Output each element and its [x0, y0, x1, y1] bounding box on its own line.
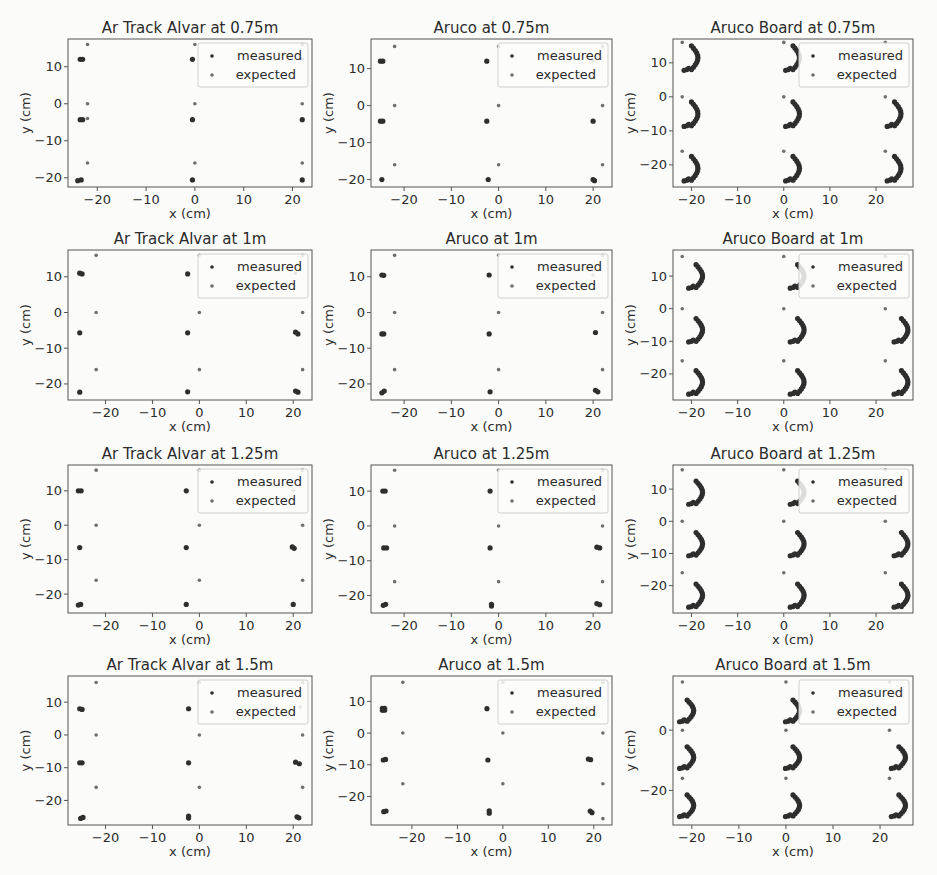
- measured-point: [677, 814, 682, 819]
- expected-point: [86, 161, 90, 165]
- expected-point: [198, 523, 202, 527]
- x-tick-label: −10: [438, 192, 465, 207]
- measured-point: [487, 811, 492, 816]
- expected-point: [94, 733, 98, 737]
- expected-point: [301, 311, 305, 315]
- measured-point: [896, 337, 901, 342]
- expected-point: [601, 368, 605, 372]
- expected-point: [601, 311, 605, 315]
- expected-point: [784, 777, 788, 781]
- measured-point: [77, 330, 82, 335]
- subplot-title: Aruco Board at 1m: [723, 230, 864, 248]
- measured-point: [588, 757, 593, 762]
- y-tick-label: 10: [348, 61, 365, 76]
- measured-point: [788, 812, 793, 817]
- x-axis-label: x (cm): [772, 844, 814, 859]
- x-tick-label: 0: [191, 192, 199, 207]
- x-tick-label: 0: [195, 618, 203, 633]
- subplot-title: Ar Track Alvar at 1m: [114, 230, 267, 248]
- expected-point: [601, 524, 605, 528]
- measured-point: [686, 339, 691, 344]
- legend-expected-label: expected: [236, 67, 296, 82]
- legend-expected-label: expected: [837, 704, 897, 719]
- measured-point: [681, 124, 686, 129]
- measured-point: [792, 551, 797, 556]
- measured-point: [682, 764, 687, 769]
- y-axis-label: y (cm): [18, 518, 33, 560]
- x-axis-label: x (cm): [169, 206, 211, 221]
- x-tick-label: −10: [724, 405, 751, 420]
- x-tick-label: 0: [780, 192, 788, 207]
- legend-measured-label: measured: [537, 474, 602, 489]
- legend: measuredexpected: [198, 469, 308, 513]
- x-tick-label: 20: [868, 192, 885, 207]
- x-tick-label: −20: [678, 405, 705, 420]
- measured-point: [77, 390, 82, 395]
- legend-measured-label: measured: [237, 685, 302, 700]
- x-axis-label: x (cm): [471, 206, 513, 221]
- expected-point: [884, 571, 888, 575]
- legend-measured-label: measured: [537, 685, 602, 700]
- legend-measured-marker: [210, 691, 214, 695]
- expected-point: [198, 368, 202, 372]
- measured-point: [291, 602, 296, 607]
- legend-expected-marker: [811, 284, 815, 288]
- measured-point: [691, 390, 696, 395]
- legend-expected-marker: [510, 73, 514, 77]
- legend-expected-marker: [510, 710, 514, 714]
- expected-point: [393, 524, 397, 528]
- x-tick-label: 20: [585, 192, 602, 207]
- y-tick-label: −20: [640, 366, 667, 381]
- y-tick-label: −10: [640, 546, 667, 561]
- expected-point: [94, 311, 98, 315]
- measured-point: [597, 602, 602, 607]
- measured-point: [896, 603, 901, 608]
- x-tick-label: 20: [285, 830, 302, 845]
- measured-point: [597, 545, 602, 550]
- legend-measured-marker: [811, 54, 815, 58]
- measured-point: [788, 66, 793, 71]
- expected-point: [198, 311, 202, 315]
- expected-point: [393, 580, 397, 584]
- measured-point: [382, 388, 387, 393]
- expected-point: [393, 254, 397, 258]
- x-tick-label: 0: [499, 830, 507, 845]
- measured-point: [595, 389, 600, 394]
- expected-point: [784, 728, 788, 732]
- measured-point: [80, 815, 85, 820]
- expected-point: [94, 368, 98, 372]
- measured-point: [681, 178, 686, 183]
- legend: measuredexpected: [799, 680, 909, 724]
- x-tick-label: 10: [238, 618, 255, 633]
- legend: measuredexpected: [799, 43, 909, 87]
- expected-point: [393, 468, 397, 472]
- legend-measured-marker: [811, 480, 815, 484]
- measured-point: [79, 177, 84, 182]
- y-axis-label: y (cm): [18, 730, 33, 772]
- y-tick-label: 0: [659, 301, 667, 316]
- expected-point: [94, 579, 98, 583]
- y-tick-label: 10: [348, 484, 365, 499]
- subplot-title: Ar Track Alvar at 1.25m: [102, 445, 279, 463]
- legend-measured-marker: [811, 691, 815, 695]
- legend-expected-label: expected: [536, 278, 596, 293]
- legend-expected-label: expected: [236, 278, 296, 293]
- measured-point: [381, 273, 386, 278]
- expected-point: [782, 571, 786, 575]
- legend-measured-label: measured: [537, 48, 602, 63]
- expected-point: [782, 95, 786, 99]
- y-tick-label: 0: [659, 514, 667, 529]
- expected-point: [86, 117, 90, 121]
- expected-point: [94, 468, 98, 472]
- subplot-title: Aruco at 1m: [445, 230, 537, 248]
- legend-expected-label: expected: [236, 493, 296, 508]
- expected-point: [784, 680, 788, 684]
- expected-point: [782, 41, 786, 45]
- x-tick-label: −20: [84, 192, 111, 207]
- measured-point: [484, 119, 489, 124]
- expected-point: [301, 733, 305, 737]
- legend-expected-marker: [811, 499, 815, 503]
- measured-point: [383, 757, 388, 762]
- expected-point: [601, 580, 605, 584]
- y-axis-label: y (cm): [321, 92, 336, 134]
